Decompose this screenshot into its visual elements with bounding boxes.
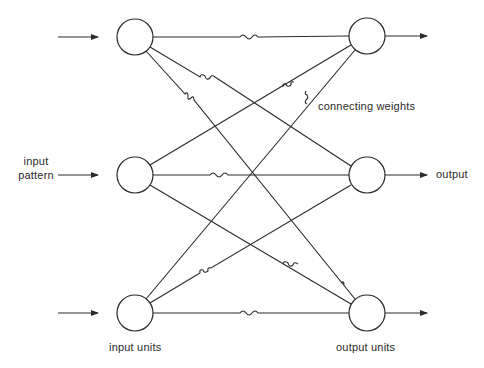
- connecting-weights-label: connecting weights: [318, 99, 415, 113]
- input-unit-3: [117, 295, 153, 331]
- output-units-label: output units: [336, 340, 395, 354]
- output-unit-1: [349, 18, 385, 54]
- output-label: output: [436, 167, 468, 181]
- input-unit-2: [117, 157, 153, 193]
- weight-in3-out1-wave: [305, 91, 308, 104]
- weight-in3-out3: [153, 311, 349, 315]
- input-pattern-label-line2: pattern: [14, 168, 58, 182]
- input-units-label: input units: [109, 340, 161, 354]
- network-diagram: [0, 0, 484, 368]
- input-pattern-label-line1: input: [14, 154, 58, 168]
- weight-in1-out1: [153, 35, 349, 39]
- input-pattern-label: input pattern: [14, 154, 58, 182]
- input-unit-1: [117, 19, 153, 55]
- output-unit-3: [349, 295, 385, 331]
- output-unit-2: [349, 157, 385, 193]
